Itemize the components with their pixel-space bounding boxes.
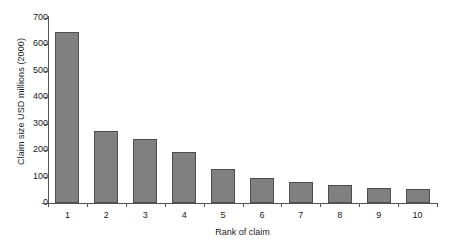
x-tick-mark [126,203,127,207]
y-tick-label: 300 [4,118,48,129]
x-tick-label: 4 [165,209,204,221]
y-tick-label: 700 [4,12,48,23]
y-tick-label: 500 [4,65,48,76]
x-tick-mark [437,203,438,207]
x-tick-label: 5 [204,209,243,221]
x-tick-mark [320,203,321,207]
x-axis-line [42,203,437,204]
x-tick-label: 8 [320,209,359,221]
x-tick-label: 10 [398,209,437,221]
y-tick-label: 600 [4,38,48,49]
bar [172,152,196,203]
x-tick-mark [243,203,244,207]
x-tick-mark [87,203,88,207]
x-tick-mark [165,203,166,207]
bar [211,169,235,203]
x-tick-mark [48,203,49,207]
y-tick-label: 400 [4,91,48,102]
x-tick-label: 7 [281,209,320,221]
y-tick-label: 100 [4,171,48,182]
bar [289,182,313,203]
y-tick-label: 200 [4,144,48,155]
x-tick-mark [281,203,282,207]
x-tick-label: 2 [87,209,126,221]
y-axis-ticks: 0100200300400500600700 [0,18,48,203]
bar-chart: Claim size USD millions (2000) 010020030… [0,0,453,246]
bar [367,188,391,203]
x-tick-mark [359,203,360,207]
bar [406,189,430,203]
x-axis-title: Rank of claim [48,226,437,238]
bar [55,32,79,203]
x-tick-mark [398,203,399,207]
x-tick-label: 6 [243,209,282,221]
plot-area [48,18,437,203]
bar [133,139,157,203]
bar [250,178,274,203]
bar [94,131,118,203]
x-tick-mark [204,203,205,207]
x-tick-label: 1 [48,209,87,221]
bar [328,185,352,204]
x-tick-label: 9 [359,209,398,221]
x-tick-label: 3 [126,209,165,221]
